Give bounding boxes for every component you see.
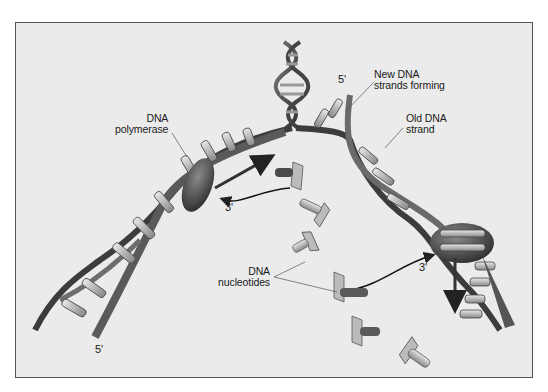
free-nucleotides <box>275 162 437 375</box>
label-new-strands-line2: strands forming <box>374 80 445 91</box>
label-nucleotides-line2: nucleotides <box>218 277 270 288</box>
right-polymerase-shape <box>430 223 494 263</box>
end-label-5prime-top: 5' <box>338 74 346 85</box>
label-dna-nucleotides: DNA nucleotides <box>218 266 270 288</box>
right-incoming-arrow <box>350 256 430 290</box>
left-incoming-arrow <box>225 188 290 201</box>
label-dna-polymerase: DNA polymerase <box>115 113 168 135</box>
end-label-3prime-right: 3' <box>419 262 427 273</box>
end-label-3prime-left: 3' <box>225 202 233 213</box>
label-old-dna-strand: Old DNA strand <box>406 113 447 135</box>
label-polymerase-line2: polymerase <box>115 124 168 135</box>
parent-helix <box>276 42 309 128</box>
left-daughter-helix <box>35 127 292 337</box>
label-old-strand-line2: strand <box>406 124 447 135</box>
replication-fork-illustration <box>0 0 548 392</box>
left-synthesis-arrow <box>215 160 265 188</box>
label-new-dna-strands: New DNA strands forming <box>374 69 445 91</box>
end-label-5prime-left: 5' <box>95 344 103 355</box>
